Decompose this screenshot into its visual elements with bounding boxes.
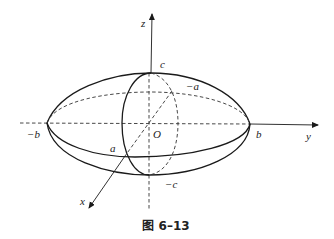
b-pos-label: b (256, 128, 262, 140)
y-axis (250, 124, 318, 125)
y-axis-label: y (305, 130, 311, 142)
c-pos-label: c (160, 58, 165, 70)
equator-front (47, 123, 250, 157)
a-neg-label: −a (186, 80, 199, 92)
b-neg-label: −b (27, 128, 40, 140)
a-pos-label: a (110, 142, 116, 154)
x-axis (89, 156, 125, 208)
outer-contour-bottom (47, 123, 250, 175)
ellipsoid-diagram: z y x O c −c −b b −a a 图 6–13 (0, 0, 334, 239)
origin-label: O (153, 128, 161, 140)
z-axis (151, 14, 152, 73)
c-neg-label: −c (165, 178, 177, 190)
figure-caption: 图 6–13 (142, 219, 189, 233)
z-axis-label: z (140, 17, 146, 29)
outer-contour-top (47, 73, 250, 124)
x-axis-label: x (79, 195, 85, 207)
equator-back (47, 92, 250, 124)
y-axis-dashed (20, 123, 250, 124)
